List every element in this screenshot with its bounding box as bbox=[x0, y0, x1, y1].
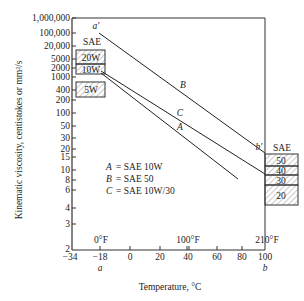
point-a-label: a bbox=[98, 263, 103, 273]
y-tick-label: 15 bbox=[61, 152, 71, 162]
a-prime-label: a′ bbox=[93, 21, 101, 31]
y-tick-label: 6 bbox=[65, 185, 70, 195]
y-tick-label: 20,000 bbox=[44, 41, 70, 51]
x-tick-label: −34 bbox=[63, 252, 78, 262]
b-prime-label: b′ bbox=[256, 142, 264, 152]
fahrenheit-label-0: 0°F bbox=[94, 235, 108, 245]
sae-header-right: SAE bbox=[273, 143, 291, 153]
y-tick-label: 30 bbox=[61, 133, 71, 143]
legend-a-text: = SAE 10W bbox=[116, 162, 163, 172]
y-tick-label: 100 bbox=[56, 108, 71, 118]
x-tick-label: 60 bbox=[212, 252, 222, 262]
legend-c-key: C bbox=[106, 186, 113, 196]
band-10w-label: 10W bbox=[82, 65, 101, 75]
line-b-label: B bbox=[180, 80, 186, 90]
sae-header-left: SAE bbox=[83, 37, 101, 47]
band-50-label: 50 bbox=[276, 156, 286, 166]
legend-a-key: A bbox=[105, 162, 112, 172]
y-tick-label: 4 bbox=[65, 203, 70, 213]
x-tick-label: 80 bbox=[237, 252, 247, 262]
y-tick-label: 100,000 bbox=[39, 28, 70, 38]
legend: A = SAE 10W B = SAE 50 C = SAE 10W/30 bbox=[105, 162, 175, 196]
legend-b-key: B bbox=[106, 174, 112, 184]
x-tick-label: −18 bbox=[93, 252, 108, 262]
fahrenheit-marks: 0°F 100°F 210°F bbox=[94, 235, 279, 245]
x-tick-labels: −34 −18 0 20 40 60 80 100 bbox=[63, 252, 273, 262]
y-tick-label: 50 bbox=[61, 121, 71, 131]
x-tick-label: 100 bbox=[258, 252, 273, 262]
legend-b-text: = SAE 50 bbox=[116, 174, 154, 184]
line-a-label: A bbox=[176, 122, 183, 132]
line-b bbox=[99, 33, 265, 153]
y-tick-label: 200 bbox=[56, 95, 71, 105]
x-axis-title: Temperature, °C bbox=[139, 282, 202, 292]
x-tick-label: 40 bbox=[183, 252, 193, 262]
y-tick-label: 400 bbox=[56, 85, 71, 95]
y-tick-label: 10 bbox=[61, 165, 71, 175]
y-axis-title: Kinematic viscosity, centistokes or mm²/… bbox=[14, 60, 24, 219]
y-tick-label: 3 bbox=[65, 219, 70, 229]
fahrenheit-label-210: 210°F bbox=[255, 235, 278, 245]
sae-bands-low-temp: SAE 20W 10W 5W bbox=[76, 37, 105, 97]
x-tick-label: 0 bbox=[128, 252, 133, 262]
legend-c-text: = SAE 10W/30 bbox=[116, 186, 175, 196]
band-40-label: 40 bbox=[276, 166, 286, 176]
viscosity-temperature-chart: 1,000,000 100,000 20,000 5000 2000 1000 … bbox=[0, 0, 304, 301]
band-20-label: 20 bbox=[276, 191, 286, 201]
y-tick-labels: 1,000,000 100,000 20,000 5000 2000 1000 … bbox=[32, 13, 70, 254]
band-30-label: 30 bbox=[276, 176, 286, 186]
y-tick-label: 1,000,000 bbox=[32, 13, 70, 23]
fahrenheit-label-100: 100°F bbox=[176, 235, 199, 245]
line-c-label: C bbox=[177, 108, 184, 118]
y-tick-label: 1000 bbox=[51, 72, 70, 82]
sae-bands-high-temp: SAE 50 40 30 20 bbox=[265, 143, 298, 205]
point-b-label: b bbox=[263, 263, 268, 273]
x-tick-label: 20 bbox=[155, 252, 165, 262]
band-20w-label: 20W bbox=[82, 53, 101, 63]
band-5w-label: 5W bbox=[84, 85, 98, 95]
series-lines bbox=[99, 33, 265, 179]
y-tick-label: 8 bbox=[65, 175, 70, 185]
